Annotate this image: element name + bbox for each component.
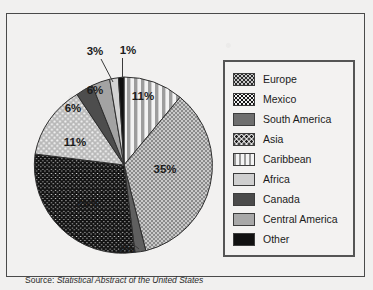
slice-label-other: 1% — [120, 44, 137, 56]
source-note: Source: Statistical Abstract of the Unit… — [25, 275, 203, 285]
legend-label-africa: Africa — [263, 174, 290, 185]
slice-label-africa: 3% — [87, 45, 104, 57]
legend-label-caribbean: Caribbean — [263, 154, 311, 165]
legend-swatch-mexico — [233, 93, 255, 106]
leader-line-africa — [101, 59, 113, 82]
legend-item-central-america[interactable]: Central America — [225, 209, 353, 229]
slice-label-mexico: 25% — [75, 197, 98, 209]
legend-item-other[interactable]: Other — [225, 229, 353, 249]
legend-swatch-central-america — [233, 213, 255, 226]
source-label: Source: — [25, 275, 54, 285]
slice-label-asia: 11% — [64, 136, 86, 148]
legend-label-asia: Asia — [263, 134, 283, 145]
legend-swatch-other — [233, 233, 255, 246]
legend-swatch-europe — [233, 73, 255, 86]
source-title: Statistical Abstract of the United State… — [57, 275, 204, 285]
legend-swatch-south-america — [233, 113, 255, 126]
pie-chart-plot: 11% 35% 25% 11% 6% 6% 3% 1% 2% — [29, 42, 219, 257]
legend-item-caribbean[interactable]: Caribbean — [225, 149, 353, 169]
legend-label-other: Other — [263, 234, 289, 245]
legend-item-canada[interactable]: Canada — [225, 189, 353, 209]
slice-label-europe: 35% — [153, 163, 176, 175]
slice-label-canada: 6% — [65, 102, 82, 114]
slice-label-central-america: 6% — [87, 84, 104, 96]
legend-item-africa[interactable]: Africa — [225, 169, 353, 189]
legend-item-mexico[interactable]: Mexico — [225, 89, 353, 109]
pie-svg: 11% 35% 25% 11% 6% 6% 3% 1% 2% — [29, 42, 219, 257]
slice-label-caribbean: 11% — [132, 90, 154, 102]
pie-chart-figure: 11% 35% 25% 11% 6% 6% 3% 1% 2% Europe — [0, 0, 373, 290]
legend-label-mexico: Mexico — [263, 94, 296, 105]
legend-item-europe[interactable]: Europe — [225, 69, 353, 89]
legend-label-europe: Europe — [263, 74, 297, 85]
legend-item-south-america[interactable]: South America — [225, 109, 353, 129]
figure-frame: 11% 35% 25% 11% 6% 6% 3% 1% 2% Europe — [6, 13, 365, 277]
legend-swatch-africa — [233, 173, 255, 186]
legend-swatch-asia — [233, 133, 255, 146]
legend-label-south-america: South America — [263, 114, 331, 125]
legend-item-asia[interactable]: Asia — [225, 129, 353, 149]
slice-label-south-america: 2% — [118, 243, 135, 255]
legend-label-canada: Canada — [263, 194, 300, 205]
legend-swatch-caribbean — [233, 153, 255, 166]
legend-label-central-america: Central America — [263, 214, 338, 225]
legend-box: Europe Mexico South America Asia Caribbe… — [223, 60, 355, 257]
legend-swatch-canada — [233, 193, 255, 206]
